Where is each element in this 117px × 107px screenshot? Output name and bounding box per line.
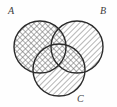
set-label-c: C [77,94,84,104]
set-label-b: B [100,6,106,16]
venn-diagram-canvas [0,0,117,107]
set-label-a: A [8,6,14,16]
venn-diagram-figure: A B C [0,0,117,107]
